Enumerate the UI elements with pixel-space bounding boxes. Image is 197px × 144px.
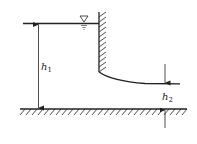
h1-label: h1 <box>41 61 52 74</box>
sluice-gate-diagram: h1 h2 <box>0 0 197 144</box>
sluice-gate <box>99 12 106 72</box>
channel-bed <box>20 109 187 115</box>
h2-label: h2 <box>162 91 173 104</box>
free-surface-symbol-icon <box>80 16 88 30</box>
downstream-water-surface <box>99 72 180 84</box>
